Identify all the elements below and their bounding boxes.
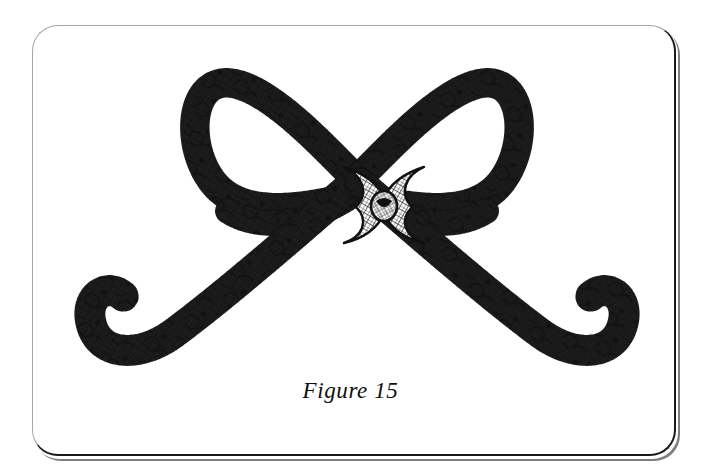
figure-page: Figure 15 (0, 0, 701, 475)
figure-caption: Figure 15 (0, 378, 701, 404)
